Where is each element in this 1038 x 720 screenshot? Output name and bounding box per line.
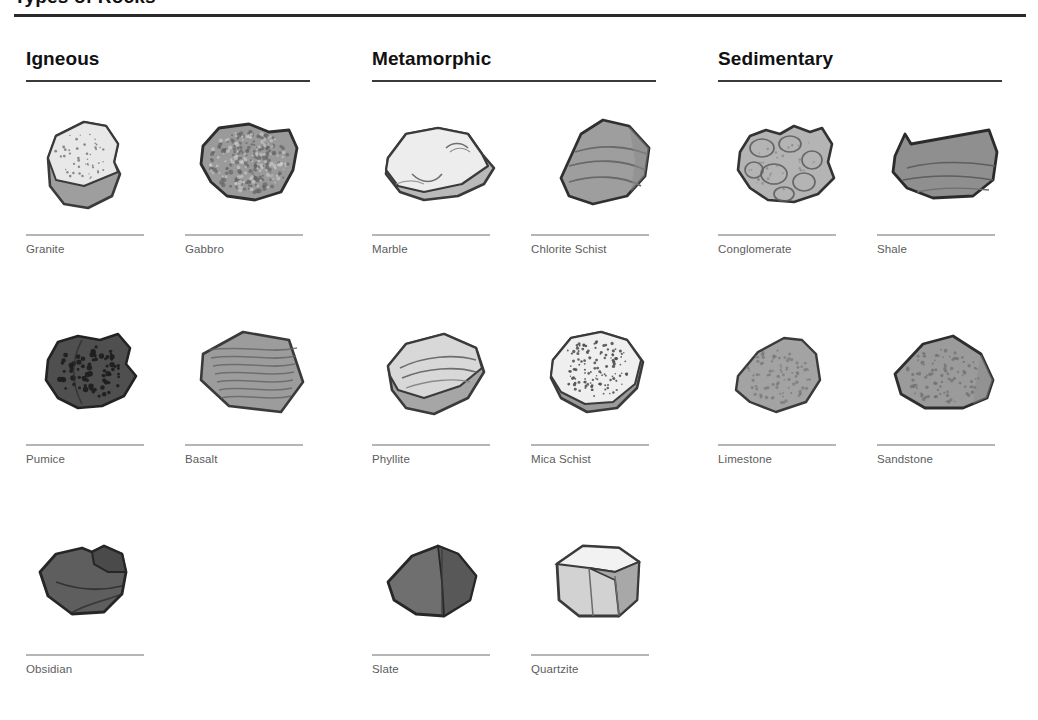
rock-label-divider: [718, 234, 836, 236]
rock-label-divider: [185, 444, 303, 446]
rock-row: Marble Chlorite Schist: [360, 100, 678, 310]
rock-label: Obsidian: [26, 663, 173, 675]
rock-grid-metamorphic: Marble Chlorite Schist Phyllite Mica Sch…: [360, 100, 678, 720]
rock-row: Obsidian: [14, 520, 332, 720]
rock-item-slate[interactable]: Slate: [360, 520, 519, 720]
rock-label-divider: [877, 234, 995, 236]
pumice-specimen-icon: [26, 310, 166, 442]
column-header-metamorphic: Metamorphic: [372, 48, 678, 70]
limestone-specimen-icon: [718, 310, 858, 442]
column-divider-metamorphic: [372, 80, 656, 82]
rock-label: Granite: [26, 243, 173, 255]
column-header-igneous: Igneous: [26, 48, 332, 70]
rock-label: Conglomerate: [718, 243, 865, 255]
rock-item-pumice[interactable]: Pumice: [14, 310, 173, 520]
granite-specimen-icon: [26, 100, 166, 232]
page-title: Types of Rocks: [14, 0, 156, 8]
rock-column-metamorphic: Metamorphic Marble Chlorite Schist: [346, 30, 692, 720]
rock-label-divider: [531, 654, 649, 656]
rock-item-obsidian[interactable]: Obsidian: [14, 520, 173, 720]
rock-label-divider: [877, 444, 995, 446]
rock-label: Marble: [372, 243, 519, 255]
phyllite-specimen-icon: [372, 310, 512, 442]
conglomerate-specimen-icon: [718, 100, 858, 232]
rock-label-divider: [26, 444, 144, 446]
rock-item-chlorite[interactable]: Chlorite Schist: [519, 100, 678, 310]
rock-item-limestone[interactable]: Limestone: [706, 310, 865, 520]
rock-label: Gabbro: [185, 243, 332, 255]
rock-item-sandstone[interactable]: Sandstone: [865, 310, 1024, 520]
rock-item-quartzite[interactable]: Quartzite: [519, 520, 678, 720]
rock-label: Pumice: [26, 453, 173, 465]
title-divider: [14, 14, 1026, 17]
rock-label: Limestone: [718, 453, 865, 465]
rock-label: Mica Schist: [531, 453, 678, 465]
sandstone-specimen-icon: [877, 310, 1017, 442]
rock-label: Quartzite: [531, 663, 678, 675]
rock-item-phyllite[interactable]: Phyllite: [360, 310, 519, 520]
rock-grid-igneous: Granite Gabbro Pumice Basalt Obsidian: [14, 100, 332, 720]
column-header-sedimentary: Sedimentary: [718, 48, 1024, 70]
rock-label-divider: [26, 234, 144, 236]
obsidian-specimen-icon: [26, 520, 166, 652]
quartzite-specimen-icon: [531, 520, 671, 652]
marble-specimen-icon: [372, 100, 512, 232]
rock-label-divider: [718, 444, 836, 446]
rock-label: Sandstone: [877, 453, 1024, 465]
rock-label-divider: [372, 234, 490, 236]
column-divider-igneous: [26, 80, 310, 82]
rock-item-granite[interactable]: Granite: [14, 100, 173, 310]
micaschist-specimen-icon: [531, 310, 671, 442]
basalt-specimen-icon: [185, 310, 325, 442]
rock-row: Phyllite Mica Schist: [360, 310, 678, 520]
rock-types-chart: Types of Rocks Igneous Granite Gabbro Pu…: [0, 0, 1038, 720]
slate-specimen-icon: [372, 520, 512, 652]
rock-label: Shale: [877, 243, 1024, 255]
rock-item-marble[interactable]: Marble: [360, 100, 519, 310]
rock-label-divider: [531, 234, 649, 236]
rock-label-divider: [26, 654, 144, 656]
rock-row: Conglomerate Shale: [706, 100, 1024, 310]
rock-item-micaschist[interactable]: Mica Schist: [519, 310, 678, 520]
rock-row: Limestone Sandstone: [706, 310, 1024, 520]
rock-column-sedimentary: Sedimentary Conglomerate Shale Limestone…: [692, 30, 1038, 720]
rock-item-shale[interactable]: Shale: [865, 100, 1024, 310]
rock-label: Slate: [372, 663, 519, 675]
rock-label-divider: [531, 444, 649, 446]
rock-grid-sedimentary: Conglomerate Shale Limestone Sandstone: [706, 100, 1024, 520]
gabbro-specimen-icon: [185, 100, 325, 232]
rock-label-divider: [372, 444, 490, 446]
rock-label: Basalt: [185, 453, 332, 465]
column-divider-sedimentary: [718, 80, 1002, 82]
rock-label-divider: [372, 654, 490, 656]
rock-row: Slate Quartzite: [360, 520, 678, 720]
rock-label: Phyllite: [372, 453, 519, 465]
rock-item-gabbro[interactable]: Gabbro: [173, 100, 332, 310]
rock-label-divider: [185, 234, 303, 236]
chlorite-specimen-icon: [531, 100, 671, 232]
rock-item-basalt[interactable]: Basalt: [173, 310, 332, 520]
rock-item-conglomerate[interactable]: Conglomerate: [706, 100, 865, 310]
rock-row: Pumice Basalt: [14, 310, 332, 520]
rock-column-igneous: Igneous Granite Gabbro Pumice Basalt Obs…: [0, 30, 346, 720]
rock-row: Granite Gabbro: [14, 100, 332, 310]
rock-columns: Igneous Granite Gabbro Pumice Basalt Obs…: [0, 30, 1038, 720]
rock-label: Chlorite Schist: [531, 243, 678, 255]
shale-specimen-icon: [877, 100, 1017, 232]
